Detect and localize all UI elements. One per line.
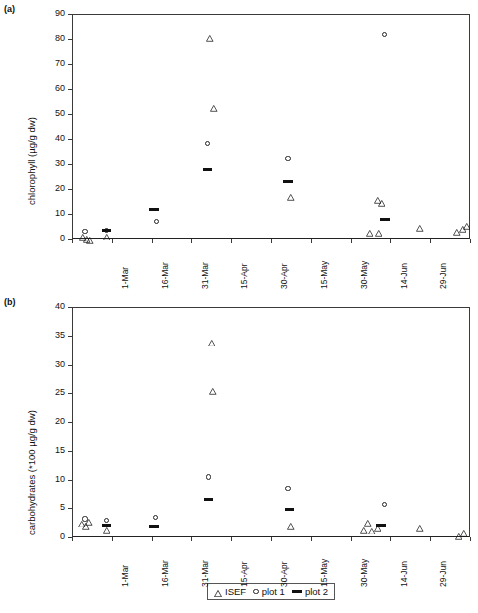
bar-icon bbox=[292, 590, 302, 593]
y-tick-label: 10 bbox=[32, 474, 65, 484]
data-point-plot-2 bbox=[204, 498, 214, 501]
x-tick-mark bbox=[430, 537, 431, 541]
y-tick-mark bbox=[68, 393, 72, 394]
data-point-isef bbox=[210, 98, 217, 104]
data-point-isef bbox=[287, 516, 294, 522]
x-tick-mark bbox=[351, 537, 352, 541]
data-point-isef bbox=[463, 216, 470, 222]
panel-a-label: (a) bbox=[4, 4, 15, 14]
data-point-isef bbox=[209, 381, 216, 387]
data-point-plot-2 bbox=[283, 180, 293, 183]
x-tick-label: 15-Apr bbox=[239, 543, 249, 587]
x-tick-label: 15-Apr bbox=[239, 245, 249, 289]
x-tick-mark bbox=[390, 537, 391, 541]
y-tick-label: 40 bbox=[32, 133, 65, 143]
x-tick-label: 1-Mar bbox=[120, 543, 130, 587]
y-tick-label: 25 bbox=[32, 387, 65, 397]
y-tick-mark bbox=[68, 336, 72, 337]
y-tick-mark bbox=[68, 114, 72, 115]
data-point-isef bbox=[364, 513, 371, 519]
y-tick-label: 5 bbox=[32, 502, 65, 512]
x-tick-mark bbox=[112, 239, 113, 243]
legend-item-label: plot 2 bbox=[305, 586, 328, 597]
x-tick-label: 15-May bbox=[319, 245, 329, 289]
x-tick-mark bbox=[231, 537, 232, 541]
chart-legend: ISEFplot 1plot 2 bbox=[207, 583, 335, 600]
x-tick-label: 15-May bbox=[319, 543, 329, 587]
x-tick-label: 16-Mar bbox=[160, 245, 170, 289]
y-tick-label: 70 bbox=[32, 58, 65, 68]
triangle-icon bbox=[214, 588, 222, 595]
y-tick-label: 35 bbox=[32, 330, 65, 340]
x-tick-label: 29-Jun bbox=[438, 245, 448, 289]
x-tick-mark bbox=[271, 537, 272, 541]
panel-carbohydrates: (b) carbohydrates (*100 µg/g dw) ISEFplo… bbox=[0, 295, 478, 613]
data-point-plot-1 bbox=[285, 156, 290, 161]
x-tick-mark bbox=[72, 239, 73, 243]
data-point-plot-1 bbox=[153, 515, 158, 520]
data-point-isef bbox=[416, 218, 423, 224]
x-tick-label: 31-Mar bbox=[200, 543, 210, 587]
x-tick-mark bbox=[191, 239, 192, 243]
y-tick-label: 0 bbox=[32, 531, 65, 541]
panel-chlorophyll: (a) chlorophyll (µg/g dw) 01020304050607… bbox=[0, 0, 478, 295]
data-point-plot-2 bbox=[102, 524, 112, 527]
x-tick-label: 1-Mar bbox=[120, 245, 130, 289]
y-tick-mark bbox=[68, 39, 72, 40]
y-tick-label: 50 bbox=[32, 108, 65, 118]
y-tick-label: 30 bbox=[32, 359, 65, 369]
y-tick-label: 0 bbox=[32, 233, 65, 243]
y-tick-mark bbox=[68, 139, 72, 140]
y-tick-mark bbox=[68, 480, 72, 481]
y-tick-mark bbox=[68, 189, 72, 190]
y-tick-label: 20 bbox=[32, 416, 65, 426]
legend-item-isef: ISEF bbox=[214, 586, 246, 597]
y-tick-label: 60 bbox=[32, 83, 65, 93]
legend-item-label: plot 1 bbox=[262, 586, 285, 597]
x-tick-label: 14-Jun bbox=[399, 245, 409, 289]
x-tick-label: 16-Mar bbox=[160, 543, 170, 587]
legend-item-plot-2: plot 2 bbox=[292, 586, 328, 597]
data-point-plot-1 bbox=[206, 474, 211, 479]
data-point-isef bbox=[206, 28, 213, 34]
x-tick-label: 30-Apr bbox=[279, 245, 289, 289]
x-tick-mark bbox=[311, 537, 312, 541]
panel-b-label: (b) bbox=[4, 297, 16, 307]
legend-item-label: ISEF bbox=[225, 586, 246, 597]
legend-item-plot-1: plot 1 bbox=[253, 586, 285, 597]
data-point-isef bbox=[366, 223, 373, 229]
x-tick-label: 31-Mar bbox=[200, 245, 210, 289]
x-tick-mark bbox=[152, 537, 153, 541]
x-tick-mark bbox=[430, 239, 431, 243]
x-tick-label: 29-Jun bbox=[438, 543, 448, 587]
x-tick-mark bbox=[152, 239, 153, 243]
x-tick-label: 30-May bbox=[359, 245, 369, 289]
y-tick-label: 40 bbox=[32, 301, 65, 311]
data-point-isef bbox=[375, 223, 382, 229]
x-tick-label: 14-Jun bbox=[399, 543, 409, 587]
y-tick-mark bbox=[68, 451, 72, 452]
x-tick-mark bbox=[470, 239, 471, 243]
x-tick-mark bbox=[470, 537, 471, 541]
y-tick-label: 20 bbox=[32, 183, 65, 193]
x-tick-mark bbox=[112, 537, 113, 541]
panel-a-plot-area bbox=[72, 14, 470, 239]
data-point-plot-1 bbox=[82, 516, 87, 521]
y-tick-mark bbox=[68, 365, 72, 366]
y-tick-mark bbox=[68, 214, 72, 215]
data-point-plot-2 bbox=[149, 525, 159, 528]
x-tick-mark bbox=[231, 239, 232, 243]
y-tick-label: 30 bbox=[32, 158, 65, 168]
circle-icon bbox=[253, 589, 259, 595]
data-point-isef bbox=[208, 332, 215, 338]
data-point-plot-2 bbox=[102, 229, 112, 232]
data-point-plot-2 bbox=[149, 208, 159, 211]
x-tick-mark bbox=[390, 239, 391, 243]
y-tick-label: 15 bbox=[32, 445, 65, 455]
panel-b-plot-area bbox=[72, 307, 470, 537]
x-tick-mark bbox=[351, 239, 352, 243]
x-tick-mark bbox=[271, 239, 272, 243]
data-point-plot-2 bbox=[380, 218, 390, 221]
data-point-plot-1 bbox=[285, 486, 290, 491]
x-tick-mark bbox=[191, 537, 192, 541]
